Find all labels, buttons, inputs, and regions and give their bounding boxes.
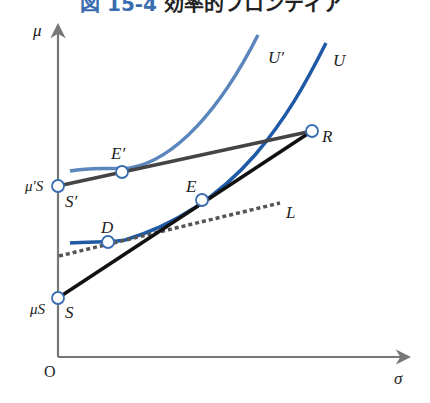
point-e-prime [116, 166, 128, 178]
mu-s-label: μS [29, 301, 46, 317]
point-r [306, 125, 318, 137]
point-s [52, 292, 64, 304]
d-label: D [100, 218, 114, 237]
e-prime-label: E′ [110, 144, 125, 163]
diagram-canvas: μ σ O μ′S S′ μS S R E′ E D U′ U L [0, 0, 430, 403]
e-label: E [185, 177, 197, 196]
line-s-r [58, 131, 312, 298]
s-prime-label: S′ [65, 192, 78, 211]
origin-label: O [44, 363, 56, 380]
point-e [196, 194, 208, 206]
point-d [102, 236, 114, 248]
line-l [59, 203, 280, 256]
s-label: S [65, 303, 74, 322]
indifference-curve-u-prime [70, 35, 258, 171]
x-axis-label: σ [394, 369, 403, 388]
u-prime-label: U′ [268, 48, 284, 67]
point-s-prime [52, 180, 64, 192]
l-label: L [285, 203, 295, 222]
y-axis-label: μ [32, 21, 42, 40]
r-label: R [321, 127, 333, 146]
mu-s-prime-label: μ′S [24, 178, 44, 194]
u-label: U [333, 51, 347, 70]
